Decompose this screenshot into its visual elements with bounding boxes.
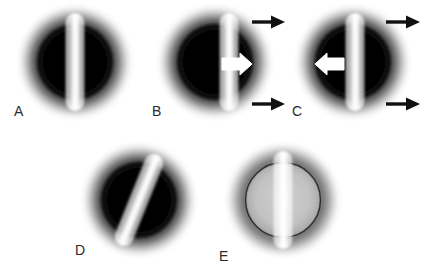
panel-label-c: C (292, 104, 303, 118)
panel-label-a: A (14, 104, 24, 118)
panel-label-e: E (219, 249, 229, 263)
panel-label-d: D (75, 243, 86, 257)
occluder-bar (346, 13, 365, 111)
panel-e-stimulus (228, 145, 338, 255)
occluder-bar (274, 151, 293, 249)
panel-d-stimulus (84, 145, 194, 255)
figure-canvas: A B C D E (0, 0, 431, 276)
stimulus-diagram (0, 0, 431, 276)
panel-label-b: B (152, 104, 162, 118)
panel-a-stimulus (20, 7, 130, 117)
occluder-bar (66, 13, 85, 111)
